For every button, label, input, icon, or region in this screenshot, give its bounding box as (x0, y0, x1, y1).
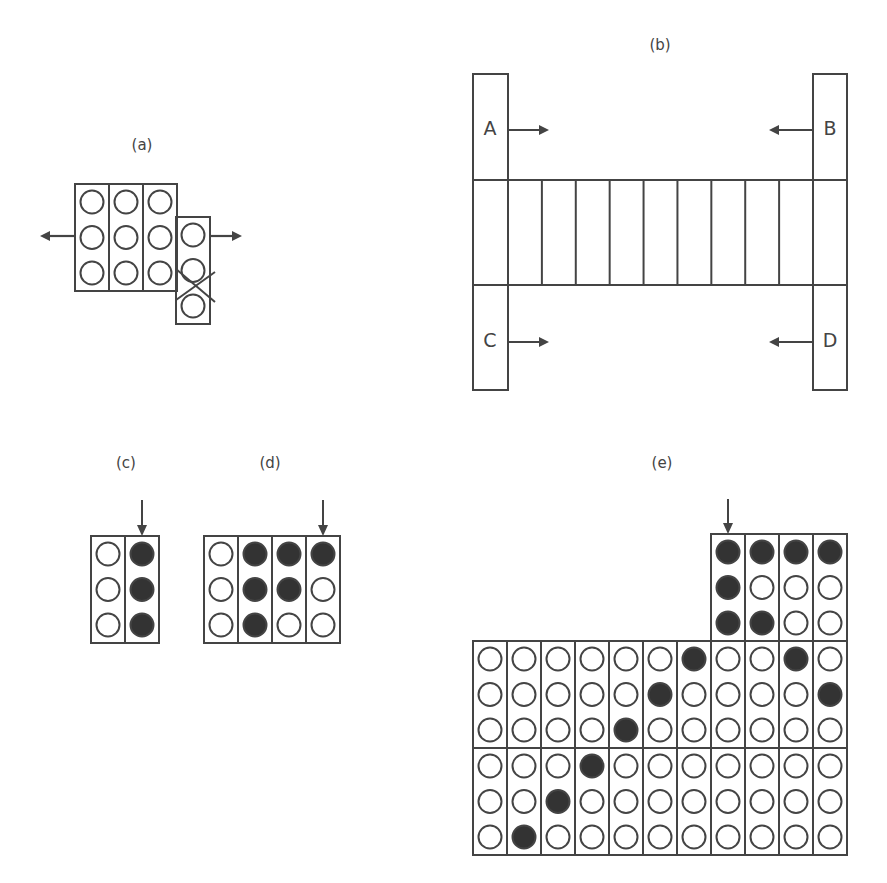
empty-bead (717, 648, 740, 671)
filled-bead (683, 648, 706, 671)
filled-bead (649, 683, 672, 706)
filled-bead (581, 755, 604, 778)
empty-bead (210, 578, 233, 601)
empty-bead (615, 790, 638, 813)
empty-bead (182, 224, 205, 247)
filled-bead (785, 648, 808, 671)
empty-bead (785, 576, 808, 599)
right-arrow-icon (232, 231, 242, 241)
filled-bead (819, 683, 842, 706)
empty-bead (717, 755, 740, 778)
empty-bead (210, 543, 233, 566)
empty-bead (479, 826, 502, 849)
panel-a (40, 184, 242, 324)
empty-bead (513, 719, 536, 742)
empty-bead (81, 191, 104, 214)
empty-bead (115, 262, 138, 285)
panel-d (204, 500, 340, 643)
empty-bead (581, 719, 604, 742)
empty-bead (547, 719, 570, 742)
empty-bead (615, 755, 638, 778)
empty-bead (97, 614, 120, 637)
empty-bead (210, 614, 233, 637)
empty-bead (479, 790, 502, 813)
empty-bead (819, 826, 842, 849)
empty-bead (149, 191, 172, 214)
arrow-b-icon (769, 125, 779, 135)
filled-bead (513, 826, 536, 849)
empty-bead (97, 543, 120, 566)
down-arrow-icon (137, 525, 147, 536)
empty-bead (312, 614, 335, 637)
filled-bead (785, 541, 808, 564)
empty-bead (615, 648, 638, 671)
empty-bead (751, 755, 774, 778)
empty-bead (581, 648, 604, 671)
filled-bead (244, 578, 267, 601)
band (473, 180, 847, 285)
empty-bead (819, 790, 842, 813)
arrow-d-icon (769, 337, 779, 347)
empty-bead (785, 612, 808, 635)
empty-bead (513, 790, 536, 813)
empty-bead (751, 826, 774, 849)
empty-bead (97, 578, 120, 601)
empty-bead (683, 755, 706, 778)
filled-bead (278, 578, 301, 601)
panel-label-c: (c) (116, 454, 136, 472)
empty-bead (649, 755, 672, 778)
filled-bead (131, 578, 154, 601)
empty-bead (115, 226, 138, 249)
empty-bead (615, 826, 638, 849)
filled-bead (131, 614, 154, 637)
empty-bead (819, 648, 842, 671)
panel-b: ABCD (473, 74, 847, 390)
empty-bead (649, 790, 672, 813)
empty-bead (683, 826, 706, 849)
empty-bead (581, 790, 604, 813)
panel-label-b: (b) (649, 36, 670, 54)
empty-bead (683, 683, 706, 706)
empty-bead (115, 191, 138, 214)
down-arrow-icon (723, 523, 733, 534)
empty-bead (819, 755, 842, 778)
bar-label-d: D (823, 329, 838, 351)
filled-bead (244, 614, 267, 637)
panel-label-a: (a) (132, 136, 153, 154)
empty-bead (547, 683, 570, 706)
empty-bead (649, 648, 672, 671)
empty-bead (182, 259, 205, 282)
empty-bead (751, 576, 774, 599)
filled-bead (751, 541, 774, 564)
empty-bead (581, 683, 604, 706)
filled-bead (819, 541, 842, 564)
arrow-a-icon (539, 125, 549, 135)
empty-bead (717, 683, 740, 706)
bar-label-a: A (484, 117, 497, 139)
empty-bead (785, 790, 808, 813)
empty-bead (479, 648, 502, 671)
filled-bead (717, 541, 740, 564)
panel-c (91, 500, 159, 643)
panel-label-d: (d) (259, 454, 280, 472)
empty-bead (479, 719, 502, 742)
empty-bead (547, 826, 570, 849)
empty-bead (615, 683, 638, 706)
empty-bead (785, 755, 808, 778)
empty-bead (717, 790, 740, 813)
empty-bead (149, 262, 172, 285)
filled-bead (717, 576, 740, 599)
empty-bead (717, 719, 740, 742)
empty-bead (479, 755, 502, 778)
empty-bead (785, 826, 808, 849)
empty-bead (81, 262, 104, 285)
empty-bead (751, 648, 774, 671)
panel-e (473, 499, 847, 855)
filled-bead (278, 543, 301, 566)
empty-bead (513, 683, 536, 706)
empty-bead (547, 648, 570, 671)
filled-bead (244, 543, 267, 566)
left-arrow-icon (40, 231, 50, 241)
empty-bead (149, 226, 172, 249)
empty-bead (785, 683, 808, 706)
